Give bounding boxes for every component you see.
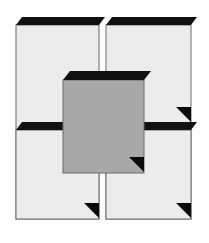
geometric-figure <box>0 0 209 243</box>
panel-center <box>63 71 151 173</box>
panel-center-top-face <box>63 71 151 80</box>
figure-canvas <box>0 0 209 243</box>
panel-top-left-top-face <box>16 17 105 25</box>
panel-top-right-top-face <box>106 17 197 25</box>
